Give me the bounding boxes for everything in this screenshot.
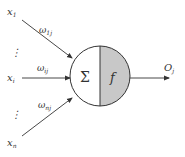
input-label-xi: xi <box>7 72 15 84</box>
activation-half <box>100 46 130 106</box>
weight-label-1j: ω1j <box>39 25 52 37</box>
output-label: Oj <box>164 62 174 75</box>
neuron-diagram: x1 xi xn ω1j ωij ωnj ⋮ ⋮ Σ f Oj <box>0 0 185 157</box>
ellipsis-top: ⋮ <box>11 47 21 58</box>
sum-symbol: Σ <box>80 69 90 85</box>
ellipsis-bottom: ⋮ <box>11 109 21 120</box>
input-label-xn: xn <box>7 137 17 149</box>
weight-label-ij: ωij <box>37 63 48 75</box>
arrow-x1 <box>22 20 72 58</box>
input-label-x1: x1 <box>7 6 16 18</box>
weight-label-nj: ωnj <box>38 100 51 112</box>
neuron-node <box>70 46 130 106</box>
